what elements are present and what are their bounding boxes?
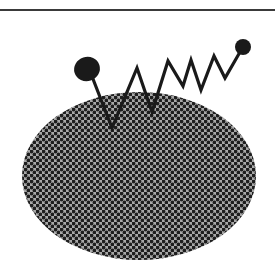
halftone-oval-body bbox=[22, 92, 256, 260]
right-knob-ball bbox=[235, 39, 251, 55]
left-knob-blob bbox=[71, 54, 103, 85]
diagram-canvas bbox=[0, 0, 275, 273]
